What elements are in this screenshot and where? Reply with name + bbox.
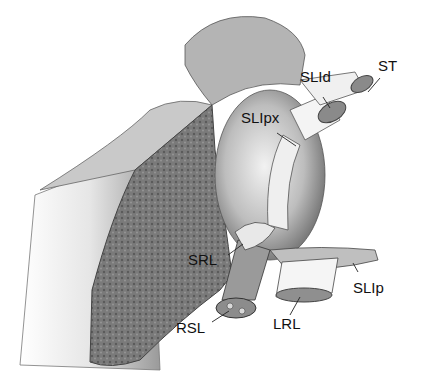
label-st: ST (378, 58, 397, 73)
anatomical-illustration (0, 0, 421, 389)
label-slid: SLId (300, 69, 331, 84)
lrl-cut (276, 288, 332, 302)
rsl-fascicle (239, 308, 245, 314)
label-slip: SLIp (353, 280, 384, 295)
label-rsl: RSL (176, 320, 205, 335)
label-slipx: SLIpx (241, 110, 279, 125)
label-srl: SRL (188, 252, 217, 267)
rsl-fascicle (227, 303, 233, 309)
superior-bone (185, 17, 305, 105)
label-lrl: LRL (273, 316, 301, 331)
